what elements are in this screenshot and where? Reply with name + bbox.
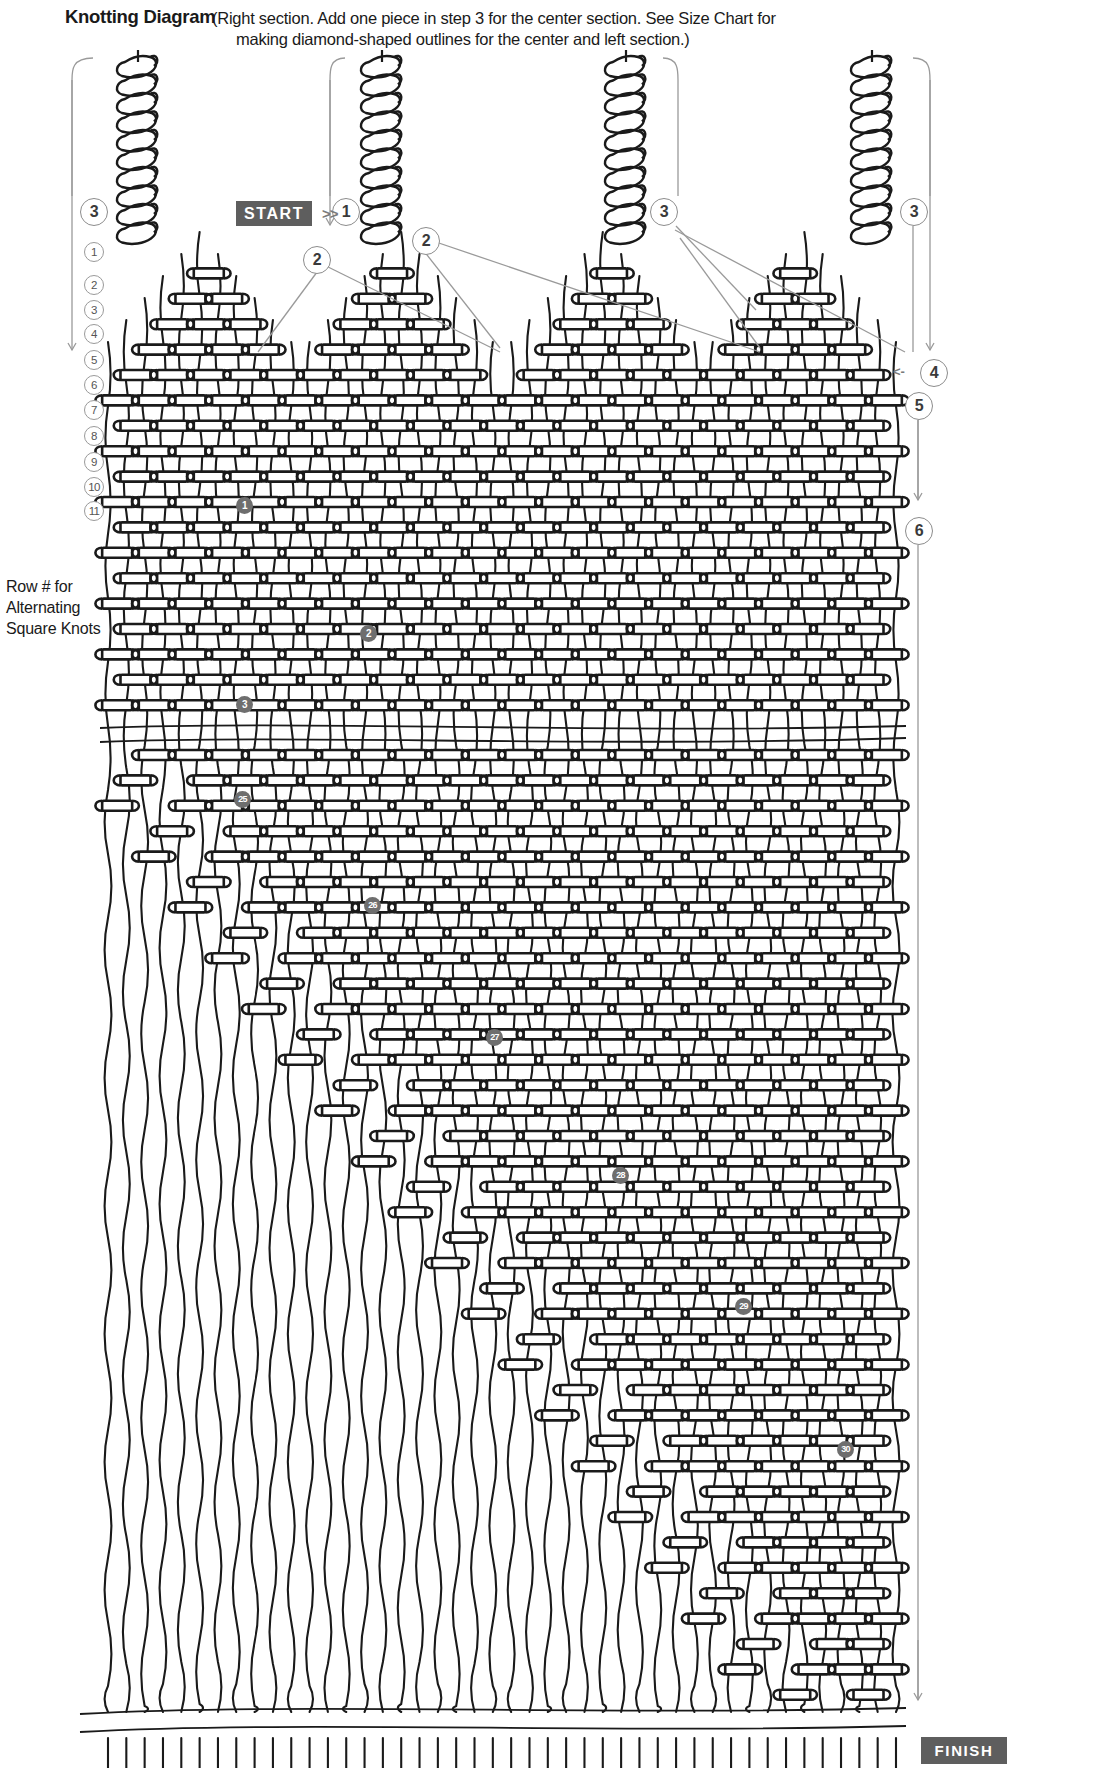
row-number-7: 7 — [84, 400, 104, 420]
marker-right-5: 5 — [905, 392, 933, 420]
spiral-sinnet-3 — [605, 50, 645, 244]
knot-illustration — [0, 0, 1096, 1768]
row-number-5: 5 — [84, 350, 104, 370]
row-number-2: 2 — [84, 275, 104, 295]
row-number-legend: Row # for Alternating Square Knots — [6, 576, 126, 639]
row-number-3: 3 — [84, 300, 104, 320]
marker-mid-2: 2 — [412, 227, 440, 255]
knot-badge-29: 29 — [735, 1298, 752, 1315]
left-arrow-icon: <- — [893, 364, 905, 379]
row-legend-line-3: Square Knots — [6, 618, 126, 639]
knot-badge-26: 26 — [364, 897, 381, 914]
marker-right-4: 4 — [920, 359, 948, 387]
spiral-sinnet-2 — [361, 50, 401, 244]
row-legend-line-2: Alternating — [6, 597, 126, 618]
finish-badge: FINISH — [921, 1737, 1007, 1764]
marker-right-3b: 3 — [900, 198, 928, 226]
row-number-9: 9 — [84, 452, 104, 472]
marker-left-2: 2 — [303, 246, 331, 274]
marker-right-3a: 3 — [650, 198, 678, 226]
knot-badge-28: 28 — [612, 1167, 629, 1184]
marker-left-3: 3 — [80, 198, 108, 226]
knot-badge-2: 2 — [360, 625, 377, 642]
spiral-sinnet-4 — [851, 50, 891, 244]
spiral-sinnet-1 — [117, 50, 157, 244]
marker-right-6: 6 — [905, 517, 933, 545]
row-number-11: 11 — [84, 501, 104, 521]
row-number-4: 4 — [84, 324, 104, 344]
knot-badge-3: 3 — [236, 696, 253, 713]
knot-badge-27: 27 — [486, 1029, 503, 1046]
knot-badge-1: 1 — [236, 497, 253, 514]
row-number-10: 10 — [84, 477, 104, 497]
start-badge: START — [236, 201, 312, 226]
start-chevron-icon: >> — [322, 205, 338, 222]
knot-badge-25: 25 — [234, 791, 251, 808]
row-number-8: 8 — [84, 426, 104, 446]
row-number-6: 6 — [84, 375, 104, 395]
knotting-diagram-page: Knotting Diagram (Right section. Add one… — [0, 0, 1096, 1768]
row-legend-line-1: Row # for — [6, 576, 126, 597]
row-number-1: 1 — [84, 242, 104, 262]
knot-badge-30: 30 — [837, 1441, 854, 1458]
